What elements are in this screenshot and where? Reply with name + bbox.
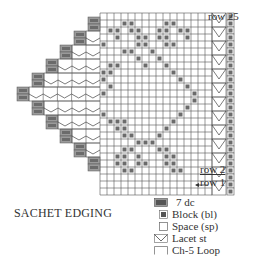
legend-label: Block (bl) [172, 208, 217, 220]
row-1-label: row 1 [200, 177, 225, 188]
legend-label: 7 dc [176, 196, 195, 208]
space-icon [159, 222, 168, 231]
chart-edge-column [227, 13, 234, 195]
ch5-loop-icon [154, 246, 168, 255]
block-icon [159, 210, 168, 219]
row-25-label: row 25 [208, 11, 239, 22]
legend-label: Lacet st [172, 232, 207, 244]
legend-label: Space (sp) [172, 220, 218, 232]
seven-dc-icon [154, 198, 168, 207]
chart-title: SACHET EDGING [14, 206, 112, 221]
chart-grid [100, 13, 212, 195]
row-2-label: row 2 [200, 164, 225, 175]
lacet-icon [154, 234, 168, 243]
legend-label: Ch-5 Loop [172, 244, 220, 256]
